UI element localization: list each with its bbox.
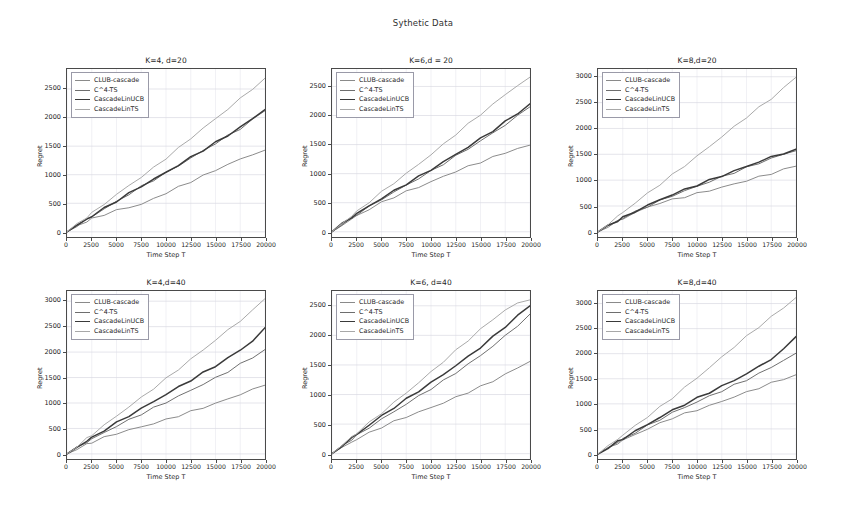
legend[interactable]: CLUB-cascadeC^4-TSCascadeLinUCBCascadeLi… (71, 72, 149, 118)
legend-item[interactable]: CLUB-cascade (606, 76, 675, 86)
legend-item[interactable]: C^4-TS (606, 86, 675, 96)
x-tick-mark (331, 460, 332, 463)
x-tick-mark (481, 460, 482, 463)
legend[interactable]: CLUB-cascadeC^4-TSCascadeLinUCBCascadeLi… (336, 72, 414, 118)
y-tick-mark (63, 146, 66, 147)
x-tick-mark (166, 238, 167, 241)
subplot-panel: K=6, d=40CLUB-cascadeC^4-TSCascadeLinUCB… (291, 278, 541, 488)
y-tick-label: 3000 (557, 72, 592, 80)
y-tick-label: 0 (26, 451, 61, 459)
subplot-panel: K=8,d=40CLUB-cascadeC^4-TSCascadeLinUCBC… (557, 278, 807, 488)
legend-item[interactable]: CascadeLinTS (340, 105, 409, 115)
x-tick-label: 20000 (250, 241, 282, 248)
legend-item[interactable]: C^4-TS (340, 86, 409, 96)
y-tick-label: 3000 (557, 299, 592, 307)
subplot-panel: K=8,d=20CLUB-cascadeC^4-TSCascadeLinUCBC… (557, 56, 807, 266)
legend-swatch-c-4-ts (606, 90, 621, 91)
legend-item[interactable]: CascadeLinTS (606, 327, 675, 337)
y-tick-label: 500 (557, 426, 592, 434)
x-tick-mark (241, 238, 242, 241)
x-tick-label: 20000 (781, 463, 813, 470)
legend-label: C^4-TS (359, 86, 383, 96)
y-axis-label: Regret (301, 146, 309, 167)
legend-item[interactable]: CLUB-cascade (75, 76, 144, 86)
y-tick-label: 2500 (26, 84, 61, 92)
y-tick-mark (63, 117, 66, 118)
y-tick-label: 0 (557, 229, 592, 237)
y-axis-label: Regret (567, 368, 575, 389)
legend-item[interactable]: CascadeLinUCB (340, 317, 409, 327)
legend-item[interactable]: CascadeLinUCB (606, 317, 675, 327)
legend-label: CascadeLinTS (359, 327, 403, 337)
y-tick-mark (594, 207, 597, 208)
legend-item[interactable]: CLUB-cascade (340, 298, 409, 308)
legend-item[interactable]: CascadeLinTS (340, 327, 409, 337)
x-tick-mark (506, 460, 507, 463)
y-tick-mark (63, 88, 66, 89)
y-tick-mark (328, 395, 331, 396)
x-tick-mark (91, 238, 92, 241)
legend[interactable]: CLUB-cascadeC^4-TSCascadeLinUCBCascadeLi… (602, 294, 680, 340)
legend-swatch-cascadelinucb (606, 99, 621, 100)
y-tick-mark (594, 128, 597, 129)
y-axis-label: Regret (301, 368, 309, 389)
legend-item[interactable]: CascadeLinTS (606, 105, 675, 115)
x-tick-mark (141, 460, 142, 463)
subplot-title: K=8,d=40 (597, 278, 797, 287)
y-tick-mark (328, 305, 331, 306)
y-axis-label: Regret (567, 146, 575, 167)
legend-item[interactable]: C^4-TS (75, 86, 144, 96)
legend-item[interactable]: CLUB-cascade (75, 298, 144, 308)
legend-swatch-cascadelinucb (75, 99, 90, 100)
y-tick-label: 0 (26, 229, 61, 237)
legend[interactable]: CLUB-cascadeC^4-TSCascadeLinUCBCascadeLi… (602, 72, 680, 118)
legend-item[interactable]: CascadeLinUCB (340, 95, 409, 105)
legend-item[interactable]: CascadeLinTS (75, 327, 144, 337)
y-axis-label: Regret (36, 368, 44, 389)
legend-swatch-cascadelinucb (340, 321, 355, 322)
legend[interactable]: CLUB-cascadeC^4-TSCascadeLinUCBCascadeLi… (71, 294, 149, 340)
x-tick-mark (191, 460, 192, 463)
legend-item[interactable]: CLUB-cascade (340, 76, 409, 86)
y-tick-label: 2000 (26, 348, 61, 356)
legend-item[interactable]: C^4-TS (340, 308, 409, 318)
x-tick-mark (266, 238, 267, 241)
x-tick-mark (381, 238, 382, 241)
x-tick-mark (166, 460, 167, 463)
y-tick-label: 1000 (557, 400, 592, 408)
y-tick-mark (594, 180, 597, 181)
y-tick-label: 2500 (291, 301, 326, 309)
x-tick-mark (622, 460, 623, 463)
legend-item[interactable]: CascadeLinTS (75, 105, 144, 115)
legend-swatch-c-4-ts (75, 90, 90, 91)
legend-item[interactable]: CascadeLinUCB (606, 95, 675, 105)
legend-label: CascadeLinUCB (625, 95, 675, 105)
x-tick-label: 20000 (781, 241, 813, 248)
legend-item[interactable]: CascadeLinUCB (75, 317, 144, 327)
legend-item[interactable]: CLUB-cascade (606, 298, 675, 308)
x-tick-label: 20000 (515, 241, 547, 248)
y-tick-label: 2500 (557, 98, 592, 106)
y-tick-mark (594, 430, 597, 431)
x-tick-mark (406, 460, 407, 463)
x-tick-mark (697, 460, 698, 463)
x-tick-mark (381, 460, 382, 463)
subplot-title: K=6,d = 20 (331, 56, 531, 65)
legend-swatch-cascadelints (75, 331, 90, 332)
subplot-panel: K=4, d=20CLUB-cascadeC^4-TSCascadeLinUCB… (26, 56, 276, 266)
legend-item[interactable]: C^4-TS (606, 308, 675, 318)
y-tick-mark (63, 378, 66, 379)
x-tick-mark (722, 238, 723, 241)
legend[interactable]: CLUB-cascadeC^4-TSCascadeLinUCBCascadeLi… (336, 294, 414, 340)
y-tick-mark (63, 429, 66, 430)
y-tick-mark (594, 154, 597, 155)
legend-swatch-club-cascade (606, 80, 621, 81)
legend-item[interactable]: C^4-TS (75, 308, 144, 318)
y-tick-mark (328, 174, 331, 175)
y-tick-label: 0 (291, 451, 326, 459)
y-tick-mark (328, 86, 331, 87)
y-tick-label: 500 (26, 425, 61, 433)
legend-item[interactable]: CascadeLinUCB (75, 95, 144, 105)
legend-swatch-c-4-ts (340, 90, 355, 91)
y-tick-mark (328, 203, 331, 204)
